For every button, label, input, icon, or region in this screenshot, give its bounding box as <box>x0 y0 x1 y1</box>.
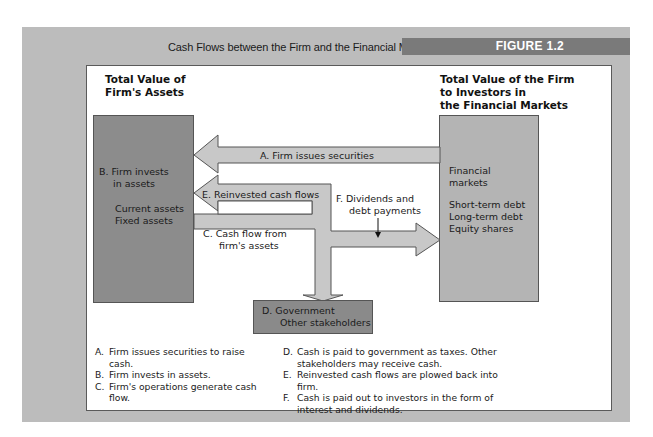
assets-label-line: in assets <box>99 178 169 190</box>
markets-label-line: markets <box>449 177 491 189</box>
legend-key: F. <box>283 392 297 415</box>
legend-key: C. <box>95 381 109 404</box>
markets-label-line: Financial <box>449 165 491 177</box>
arrow-f-label-line: F. Dividends and <box>336 193 421 205</box>
legend-text: Cash is paid to government as taxes. Oth… <box>297 346 508 369</box>
arrow-a-label: A. Firm issues securities <box>260 150 374 162</box>
arrow-c-label-line: C. Cash flow from <box>203 228 287 240</box>
markets-item-short-term-debt: Short-term debt <box>449 199 525 211</box>
markets-item-equity-shares: Equity shares <box>449 223 525 235</box>
government-label-line: D. Government <box>262 305 371 317</box>
legend-text: Reinvested cash flows are plowed back in… <box>297 369 508 392</box>
markets-label: Financial markets <box>449 165 491 189</box>
legend-item-e: E. Reinvested cash flows are plowed back… <box>283 369 508 392</box>
legend-key: E. <box>283 369 297 392</box>
government-label: D. Government Other stakeholders <box>262 305 371 329</box>
arrow-f-label-line: debt payments <box>336 205 421 217</box>
assets-item-fixed: Fixed assets <box>115 215 184 227</box>
legend-text: Firm's operations generate cash flow. <box>109 381 270 404</box>
legend-key: B. <box>95 369 109 381</box>
arrow-e-label: E. Reinvested cash flows <box>202 189 319 201</box>
government-label-line: Other stakeholders <box>262 317 371 329</box>
legend-text: Cash is paid out to investors in the for… <box>297 392 508 415</box>
assets-label-line: B. Firm invests <box>99 166 169 178</box>
legend-key: D. <box>283 346 297 369</box>
legend-column-1: A. Firm issues securities to raise cash.… <box>95 346 270 404</box>
markets-items: Short-term debt Long-term debt Equity sh… <box>449 199 525 235</box>
legend-key: A. <box>95 346 109 369</box>
arrow-f-label: F. Dividends and debt payments <box>336 193 421 217</box>
assets-items: Current assets Fixed assets <box>115 203 184 227</box>
legend-item-c: C. Firm's operations generate cash flow. <box>95 381 270 404</box>
legend-item-a: A. Firm issues securities to raise cash. <box>95 346 270 369</box>
legend-text: Firm invests in assets. <box>109 369 270 381</box>
legend-item-d: D. Cash is paid to government as taxes. … <box>283 346 508 369</box>
legend-item-f: F. Cash is paid out to investors in the … <box>283 392 508 415</box>
arrow-c-label: C. Cash flow from firm's assets <box>203 228 287 252</box>
assets-label: B. Firm invests in assets <box>99 166 169 190</box>
legend-column-2: D. Cash is paid to government as taxes. … <box>283 346 508 415</box>
assets-item-current: Current assets <box>115 203 184 215</box>
markets-item-long-term-debt: Long-term debt <box>449 211 525 223</box>
arrow-c-label-line: firm's assets <box>203 240 287 252</box>
legend-item-b: B. Firm invests in assets. <box>95 369 270 381</box>
legend-text: Firm issues securities to raise cash. <box>109 346 270 369</box>
